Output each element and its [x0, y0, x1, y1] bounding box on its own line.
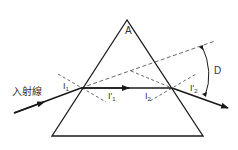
prism-diagram: A 入射線 I1 I'1 I2 I'2 D — [0, 0, 238, 150]
incident-ray-arrow — [14, 102, 44, 113]
incident-extension-dashed — [81, 41, 215, 88]
deviation-angle-label: D — [214, 65, 221, 76]
incidence-angle-2-label: I2 — [145, 91, 152, 102]
incidence-angle-1-label: I1 — [63, 81, 70, 92]
apex-angle-label: A — [125, 25, 132, 36]
exit-ray — [172, 88, 228, 108]
deviation-arc — [202, 46, 209, 96]
incident-ray-label: 入射線 — [12, 85, 42, 97]
prism-triangle — [52, 20, 203, 136]
refraction-angle-1-label: I'1 — [108, 91, 116, 102]
refraction-angle-2-label: I'2 — [190, 83, 198, 94]
